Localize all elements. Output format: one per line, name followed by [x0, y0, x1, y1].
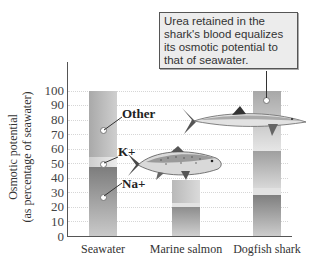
- category-dogfish-shark: Dogfish shark: [222, 242, 312, 257]
- segment-na: [253, 195, 281, 236]
- category-marine-salmon: Marine salmon: [141, 242, 231, 257]
- y-tick-10: 10: [44, 215, 64, 228]
- y-tick-60: 60: [44, 142, 64, 155]
- y-tick-70: 70: [44, 128, 64, 141]
- salmon-fish-icon: [126, 144, 226, 188]
- y-axis-label-line2: (as percentage of seawater): [20, 82, 34, 232]
- dogfish-shark-icon: [180, 104, 310, 140]
- y-tick-80: 80: [44, 113, 64, 126]
- y-axis: [67, 62, 68, 237]
- segment-other: [253, 151, 281, 188]
- y-tick-100: 100: [44, 84, 64, 97]
- y-axis-label: Osmotic potential (as percentage of seaw…: [6, 82, 40, 232]
- y-tick-20: 20: [44, 200, 64, 213]
- segment-k: [253, 188, 281, 195]
- category-seawater: Seawater: [58, 242, 148, 257]
- urea-callout: Urea retained in the shark's blood equal…: [159, 12, 298, 69]
- x-axis: [67, 236, 292, 237]
- y-tick-90: 90: [44, 98, 64, 111]
- callout-leader-line: [266, 71, 267, 98]
- urea-marker-icon: [263, 97, 270, 104]
- y-tick-50: 50: [44, 157, 64, 170]
- label-other: Other: [122, 106, 155, 122]
- y-tick-40: 40: [44, 171, 64, 184]
- segment-na: [172, 207, 200, 236]
- y-tick-30: 30: [44, 186, 64, 199]
- bar-marine-salmon: [172, 180, 200, 236]
- y-axis-label-line1: Osmotic potential: [6, 82, 20, 232]
